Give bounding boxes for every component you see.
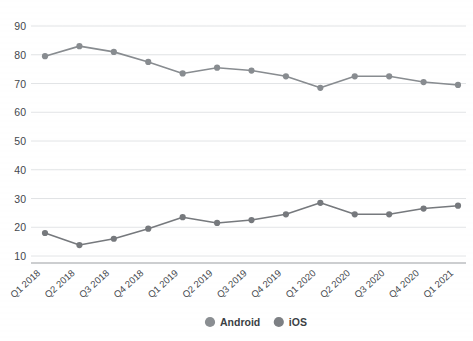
data-point[interactable]: [455, 203, 461, 209]
data-point[interactable]: [352, 211, 358, 217]
data-point[interactable]: [283, 211, 289, 217]
y-axis-tick-labels: 908070605040302010: [14, 20, 26, 262]
legend-label-ios[interactable]: iOS: [289, 316, 307, 328]
data-point[interactable]: [283, 73, 289, 79]
chart-legend: AndroidiOS: [205, 316, 307, 328]
data-point[interactable]: [214, 220, 220, 226]
data-point[interactable]: [248, 217, 254, 223]
data-point[interactable]: [180, 70, 186, 76]
data-point[interactable]: [420, 205, 426, 211]
y-tick-label: 60: [14, 106, 26, 118]
legend-marker-ios: [274, 317, 284, 327]
y-tick-label: 30: [14, 193, 26, 205]
data-point[interactable]: [145, 59, 151, 65]
data-point[interactable]: [317, 200, 323, 206]
y-tick-label: 10: [14, 250, 26, 262]
data-point[interactable]: [42, 230, 48, 236]
y-tick-label: 70: [14, 78, 26, 90]
line-chart: 908070605040302010 Q1 2018Q2 2018Q3 2018…: [0, 0, 473, 341]
legend-label-android[interactable]: Android: [220, 316, 260, 328]
y-tick-label: 40: [14, 164, 26, 176]
chart-container: 908070605040302010 Q1 2018Q2 2018Q3 2018…: [0, 0, 473, 341]
y-tick-label: 90: [14, 20, 26, 32]
y-tick-label: 80: [14, 49, 26, 61]
data-point[interactable]: [248, 67, 254, 73]
legend-marker-android: [205, 317, 215, 327]
data-point[interactable]: [76, 43, 82, 49]
data-point[interactable]: [145, 226, 151, 232]
y-tick-label: 50: [14, 135, 26, 147]
data-point[interactable]: [214, 65, 220, 71]
data-point[interactable]: [111, 236, 117, 242]
data-point[interactable]: [455, 82, 461, 88]
data-point[interactable]: [42, 53, 48, 59]
data-point[interactable]: [386, 73, 392, 79]
data-point[interactable]: [317, 85, 323, 91]
data-point[interactable]: [352, 73, 358, 79]
data-point[interactable]: [111, 49, 117, 55]
y-tick-label: 20: [14, 221, 26, 233]
data-point[interactable]: [386, 211, 392, 217]
data-point[interactable]: [420, 79, 426, 85]
data-point[interactable]: [76, 242, 82, 248]
data-point[interactable]: [180, 214, 186, 220]
